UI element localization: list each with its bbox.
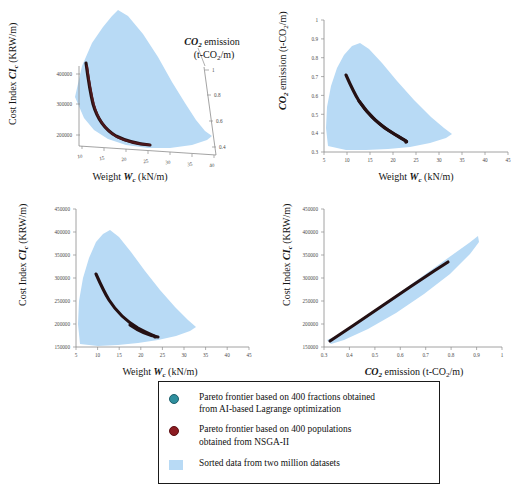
ytick-label: 200000	[302, 321, 318, 327]
ytick-label: 450000	[302, 206, 318, 212]
ytick-label: 0.8	[312, 55, 319, 61]
yaxis-ticks-bottom-right: 450000 400000 350000 300000 250000 20000…	[302, 206, 324, 350]
xtick-label: 40	[482, 157, 488, 163]
ytick-label: 350000	[302, 252, 318, 258]
panel-bottom-left: 450000 400000 350000 300000 250000 20000…	[0, 186, 264, 381]
legend-item-nsga: Pareto frontier based on 400 populations…	[159, 423, 439, 447]
ztick-label: 1	[212, 67, 215, 73]
legend-box: Pareto frontier based on 400 fractions o…	[158, 381, 440, 484]
ytick-label: 300000	[302, 275, 318, 281]
legend-item-lagrange: Pareto frontier based on 400 fractions o…	[159, 391, 439, 415]
xtick-label: 0.8	[448, 352, 455, 358]
xtick-label: 0.5	[372, 352, 379, 358]
xtick-label: 15	[99, 155, 105, 162]
ytick-label: 300000	[54, 275, 70, 281]
panel-bottom-left-svg: 450000 400000 350000 300000 250000 20000…	[0, 186, 264, 381]
xaxis-label-top-right: Weight Wc (kN/m)	[378, 171, 453, 184]
xtick-label: 0.3	[321, 352, 328, 358]
yaxis-ticks-bottom-left: 450000 400000 350000 300000 250000 20000…	[54, 206, 76, 350]
xtick-label: 10	[77, 153, 83, 160]
legend-line-1: Sorted data from two million datasets	[199, 458, 340, 468]
ytick-label: 200000	[56, 132, 72, 138]
xtick-label: 35	[459, 157, 465, 163]
yaxis-ticks-top-left: 400000 300000 200000	[56, 71, 80, 138]
xtick-label: 40	[209, 162, 215, 169]
legend-item-label: Pareto frontier based on 400 fractions o…	[199, 391, 375, 415]
panel-top-left-svg: 400000 300000 200000 10 15 20 25 30 35 4…	[0, 0, 264, 186]
yaxis-label-bottom-right: Cost Index CIc (KRW/m)	[281, 204, 294, 306]
figure-root: 400000 300000 200000 10 15 20 25 30 35 4…	[0, 0, 527, 499]
legend-item-label: Sorted data from two million datasets	[199, 457, 340, 469]
panel-top-left: 400000 300000 200000 10 15 20 25 30 35 4…	[0, 0, 264, 186]
legend-line-1: Pareto frontier based on 400 populations	[199, 424, 351, 434]
ytick-label: 300000	[56, 101, 72, 107]
yaxis-label-top-left: Cost Index CIc (KRW/m)	[7, 23, 20, 125]
xtick-label: 25	[160, 352, 166, 358]
pareto-frontier-curve	[330, 262, 448, 341]
xtick-label: 40	[225, 352, 231, 358]
yaxis-label-top-right: CO2 emission (t-CO2/m)	[277, 11, 290, 110]
data-cloud-region	[75, 10, 212, 148]
zaxis-label-top-left: CO2 emission	[184, 36, 239, 49]
ytick-label: 0.4	[312, 130, 319, 136]
panel-top-right-svg: 1 0.9 0.8 0.7 0.6 0.5 0.4 0.3 5	[264, 0, 527, 186]
xaxis-ticks-top-left: 10 15 20 25 30 35 40	[77, 146, 215, 168]
legend-item-sorted-data: Sorted data from two million datasets	[159, 457, 439, 470]
xtick-label: 30	[181, 352, 187, 358]
ytick-label: 150000	[302, 344, 318, 350]
ztick-label: 0.4	[219, 144, 226, 150]
legend-line-1: Pareto frontier based on 400 fractions o…	[199, 392, 375, 402]
xtick-label: 30	[436, 157, 442, 163]
ytick-label: 0.9	[312, 36, 319, 42]
ytick-label: 400000	[302, 229, 318, 235]
xtick-label: 35	[203, 352, 209, 358]
ytick-label: 0.6	[312, 93, 319, 99]
ytick-label: 250000	[54, 298, 70, 304]
xtick-label: 10	[95, 352, 101, 358]
xaxis-label-bottom-left: Weight Wc (kN/m)	[122, 366, 197, 379]
red-circle-marker	[169, 423, 199, 436]
zaxis-unit-top-left: (t-CO2/m)	[194, 49, 235, 62]
ytick-label: 400000	[54, 229, 70, 235]
yaxis-label-bottom-left: Cost Index CIc (KRW/m)	[17, 204, 30, 306]
ytick-label: 1	[315, 17, 318, 23]
yaxis-ticks-top-right: 1 0.9 0.8 0.7 0.6 0.5 0.4 0.3	[312, 17, 324, 155]
xtick-label: 20	[138, 352, 144, 358]
xtick-label: 15	[117, 352, 123, 358]
panel-top-right: 1 0.9 0.8 0.7 0.6 0.5 0.4 0.3 5	[264, 0, 527, 186]
xtick-label: 0.9	[473, 352, 480, 358]
ytick-label: 0.7	[312, 74, 319, 80]
panel-bottom-right-svg: 450000 400000 350000 300000 250000 20000…	[264, 186, 527, 381]
data-cloud-region	[326, 43, 452, 150]
xtick-label: 45	[505, 157, 511, 163]
xtick-label: 30	[165, 159, 171, 166]
xaxis-label-bottom-right: CO2 emission (t-CO2/m)	[365, 366, 464, 379]
xtick-label: 0.7	[422, 352, 429, 358]
xtick-label: 35	[187, 161, 193, 168]
ytick-label: 0.3	[312, 149, 319, 155]
panel-bottom-right: 450000 400000 350000 300000 250000 20000…	[264, 186, 527, 381]
xtick-label: 5	[75, 352, 78, 358]
xtick-label: 0.4	[346, 352, 353, 358]
ytick-label: 150000	[54, 344, 70, 350]
ztick-label: 0.8	[214, 92, 221, 98]
xtick-label: 1	[501, 352, 504, 358]
legend-item-label: Pareto frontier based on 400 populations…	[199, 423, 351, 447]
xtick-label: 5	[323, 157, 326, 163]
xtick-label: 45	[246, 352, 252, 358]
ztick-label: 0.6	[216, 118, 223, 124]
ytick-label: 400000	[56, 71, 72, 77]
xtick-label: 10	[344, 157, 350, 163]
legend-line-2: obtained from NSGA-II	[199, 437, 289, 447]
ytick-label: 350000	[54, 252, 70, 258]
xaxis-label-top-left: Weight Wc (kN/m)	[92, 171, 167, 184]
ytick-label: 0.5	[312, 112, 319, 118]
blue-square-marker	[169, 457, 199, 470]
teal-circle-marker	[169, 391, 199, 404]
xaxis-ticks-bottom-left: 5 10 15 20 25 30 35 40 45	[75, 347, 252, 358]
ytick-label: 200000	[54, 321, 70, 327]
ytick-label: 450000	[54, 206, 70, 212]
legend-line-2: from AI-based Lagrange optimization	[199, 404, 341, 414]
xtick-label: 25	[413, 157, 419, 163]
ytick-label: 250000	[302, 298, 318, 304]
